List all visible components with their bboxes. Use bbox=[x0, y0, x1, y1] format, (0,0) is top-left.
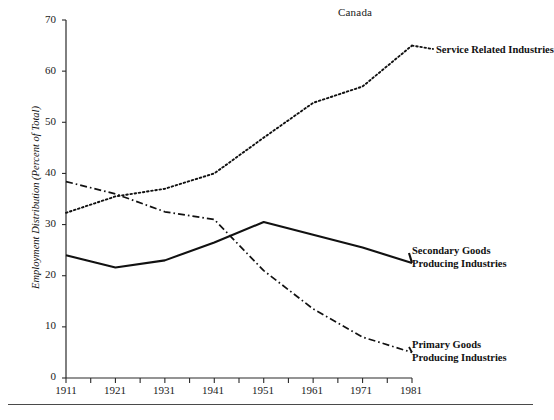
leader-lines-group bbox=[409, 46, 433, 353]
series-group bbox=[66, 46, 412, 353]
series-path-0 bbox=[66, 46, 412, 213]
leader-line-0 bbox=[412, 46, 433, 49]
leader-line-2 bbox=[409, 347, 412, 352]
series-path-1 bbox=[66, 222, 412, 268]
axes-group bbox=[62, 20, 412, 383]
bottom-divider-rule bbox=[8, 404, 533, 405]
